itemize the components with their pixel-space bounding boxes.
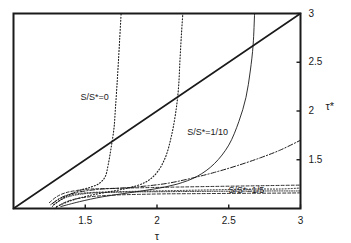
plot-canvas — [0, 0, 351, 243]
annotation-s-over-sstar-1-5: S/S*=1/5 — [229, 186, 265, 195]
x-tick-label-2: 2 — [154, 216, 160, 226]
y-axis-title: τ* — [326, 101, 335, 112]
y-tick-label-1-5: 1.5 — [309, 155, 323, 165]
y-tick-label-2-5: 2.5 — [309, 57, 323, 67]
x-tick-label-1-5: 1.5 — [78, 216, 92, 226]
annotation-s-over-sstar-1-10: S/S*=1/10 — [187, 128, 228, 137]
annotation-s-over-sstar-0: S/S*=0 — [80, 93, 108, 102]
y-tick-label-2: 2 — [309, 106, 315, 116]
figure-container: 1.5 2 2.5 3 1.5 2 2.5 3 τ τ* S/S*=0 S/S*… — [0, 0, 351, 243]
x-tick-label-3: 3 — [298, 216, 304, 226]
x-axis-title: τ — [155, 231, 159, 242]
y-tick-label-3: 3 — [309, 9, 315, 19]
x-tick-label-2-5: 2.5 — [222, 216, 236, 226]
